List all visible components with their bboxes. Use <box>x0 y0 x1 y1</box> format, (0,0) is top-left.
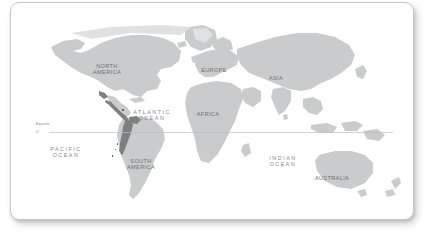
land-iceland <box>177 41 187 48</box>
world-map-graphic <box>11 3 414 220</box>
world-map-card[interactable]: Equator 0° NORTH AMERICA EUROPE ASIA AFR… <box>10 2 414 220</box>
land-india <box>271 87 291 115</box>
land-europe <box>195 49 239 77</box>
highlight-mexico-strip <box>99 91 108 99</box>
land-new-zealand <box>391 177 401 189</box>
land-madagascar <box>241 143 251 157</box>
land-japan <box>355 65 367 79</box>
land-indonesia-2 <box>341 121 363 131</box>
land-arabia <box>241 87 261 107</box>
land-new-zealand-south <box>385 189 395 197</box>
land-africa <box>185 81 243 163</box>
land-australia <box>315 151 373 189</box>
land-indonesia-1 <box>311 123 337 133</box>
land-new-guinea <box>363 129 385 141</box>
land-sri-lanka <box>283 114 288 120</box>
land-southeast-asia <box>303 97 323 115</box>
land-caribbean <box>129 97 145 103</box>
land-asia <box>237 33 355 91</box>
land-north-america <box>51 35 181 97</box>
map-stage[interactable]: Equator 0° NORTH AMERICA EUROPE ASIA AFR… <box>11 3 413 219</box>
land-tasmania <box>357 189 367 197</box>
landmass-group <box>51 25 401 199</box>
